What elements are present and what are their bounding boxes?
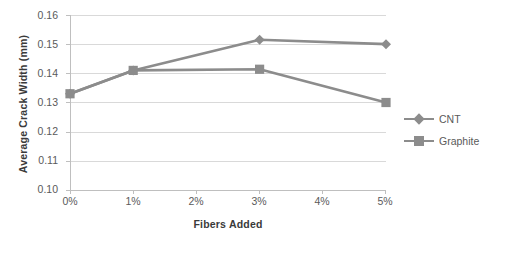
series-line-graphite — [70, 69, 386, 102]
data-point-square[interactable] — [381, 98, 390, 107]
legend-item-label: Graphite — [439, 135, 479, 147]
legend-item-cnt[interactable]: CNT — [404, 108, 508, 130]
data-point-square[interactable] — [65, 89, 74, 98]
chart-container: Average Crack Width (mm) 0.16 0.15 0.14 … — [0, 0, 512, 255]
legend-item-label: CNT — [439, 113, 461, 125]
diamond-marker-icon — [404, 113, 434, 125]
legend: CNT Graphite — [404, 108, 508, 152]
legend-item-graphite[interactable]: Graphite — [404, 130, 508, 152]
square-marker-icon — [404, 135, 434, 147]
series-line-cnt — [70, 40, 386, 94]
data-point-diamond[interactable] — [255, 35, 265, 45]
data-point-square[interactable] — [255, 65, 264, 74]
data-point-diamond[interactable] — [381, 39, 391, 49]
data-point-square[interactable] — [129, 66, 138, 75]
